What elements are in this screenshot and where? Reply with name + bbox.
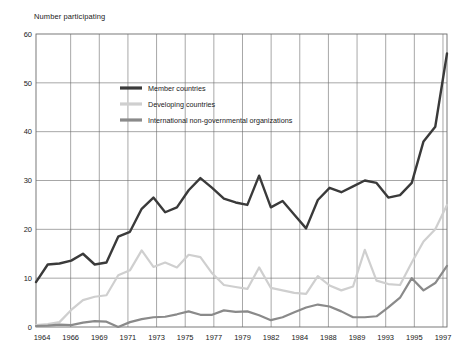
x-axis-tick-label: 1988 [320, 333, 337, 342]
y-axis-tick-label: 10 [24, 274, 32, 283]
x-axis-tick-label: 1982 [263, 333, 280, 342]
y-axis-tick-label: 20 [24, 225, 32, 234]
x-axis-tick-label: 1989 [349, 333, 366, 342]
y-axis-tick-label: 40 [24, 127, 32, 136]
legend-label-2: Developing countries [148, 100, 216, 109]
x-axis-tick-label: 1995 [406, 333, 423, 342]
y-axis-tick-label: 30 [24, 176, 32, 185]
line-chart-plot: 0102030405060196419661969197119731975197… [0, 0, 457, 356]
y-axis-tick-label: 0 [28, 323, 32, 332]
x-axis-tick-label: 1979 [234, 333, 251, 342]
x-axis-tick-label: 1964 [34, 333, 51, 342]
x-axis-tick-label: 1969 [91, 333, 108, 342]
y-axis-tick-label: 60 [24, 30, 32, 39]
legend-label-3: International non-governmental organizat… [148, 116, 293, 125]
x-axis-tick-label: 1971 [120, 333, 137, 342]
x-axis-tick-label: 1966 [62, 333, 79, 342]
x-axis-tick-label: 1973 [148, 333, 165, 342]
x-axis-tick-label: 1997 [435, 333, 452, 342]
x-axis-tick-label: 1975 [177, 333, 194, 342]
legend-label-1: Member countries [148, 84, 206, 93]
y-axis-tick-label: 50 [24, 79, 32, 88]
x-axis-tick-label: 1984 [291, 333, 308, 342]
x-axis-tick-label: 1977 [206, 333, 223, 342]
chart-container: Number participating 0102030405060196419… [0, 0, 457, 356]
x-axis-tick-label: 1993 [377, 333, 394, 342]
